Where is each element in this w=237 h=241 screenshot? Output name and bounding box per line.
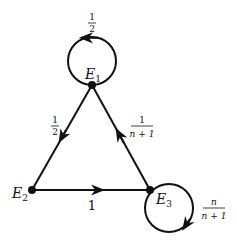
svg-text:2: 2	[89, 24, 95, 34]
edge-label-e3-loop: n n + 1	[202, 197, 227, 221]
svg-text:2: 2	[52, 127, 58, 137]
edge-label-e1-loop: 1 2	[88, 12, 96, 34]
svg-text:n + 1: n + 1	[130, 129, 155, 139]
svg-text:n: n	[211, 197, 217, 207]
edge-label-e3-e1: 1 n + 1	[130, 115, 155, 139]
svg-text:1: 1	[89, 12, 95, 22]
node-label-e3: E3	[155, 191, 172, 209]
markov-chain-diagram: 1 2 1 2 1 1 n + 1 n n + 1 E1	[0, 0, 237, 241]
edge-label-e1-e2: 1 2	[51, 115, 59, 137]
arrow-icon	[119, 134, 124, 143]
node-label-e2: E2	[11, 185, 28, 203]
edge-e1-e2	[32, 85, 92, 190]
svg-text:n + 1: n + 1	[202, 211, 227, 221]
node-label-e1: E1	[84, 66, 101, 84]
edge-label-e2-e3: 1	[88, 198, 96, 213]
node-e2	[28, 186, 36, 194]
svg-text:1: 1	[139, 115, 145, 125]
node-e3	[146, 186, 154, 194]
svg-text:1: 1	[52, 115, 58, 125]
